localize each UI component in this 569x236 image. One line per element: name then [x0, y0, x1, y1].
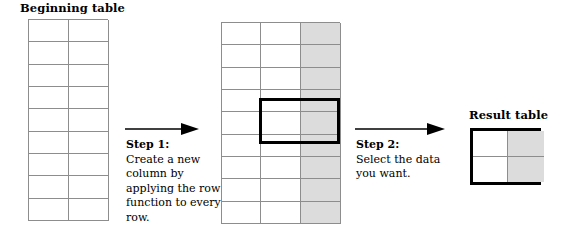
step1-caption: Step 1: Create a new column by applying … [126, 138, 222, 226]
table-cell [261, 68, 301, 90]
table-cell [301, 112, 341, 134]
table-cell [301, 179, 341, 201]
table-cell [222, 45, 261, 67]
table-cell [69, 154, 109, 176]
step1-title: Step 1: [126, 138, 222, 153]
table-cell [301, 135, 341, 157]
table-cell [261, 45, 301, 67]
table-cell [69, 109, 109, 131]
table-cell [222, 23, 261, 45]
table-cell [69, 132, 109, 154]
table-cell [301, 23, 341, 45]
table-cell [261, 157, 301, 179]
beginning-table-heading: Beginning table [20, 1, 125, 15]
table-cell [261, 202, 301, 224]
table-cell [222, 135, 261, 157]
step2-arrow-icon [355, 121, 445, 135]
table-cell [222, 112, 261, 134]
table-cell [261, 179, 301, 201]
diagram-canvas: Beginning table Step 1: Create a new col… [0, 0, 569, 236]
table-cell [508, 157, 544, 183]
table-cell [222, 157, 261, 179]
table-cell [301, 45, 341, 67]
table-cell [29, 109, 69, 131]
result-table [470, 128, 541, 185]
table-cell [301, 202, 341, 224]
table-cell [29, 199, 69, 221]
intermediate-table [221, 22, 340, 224]
table-cell [222, 90, 261, 112]
table-cell [222, 179, 261, 201]
table-cell [69, 87, 109, 109]
table-cell [222, 202, 261, 224]
table-cell [69, 42, 109, 64]
table-cell [261, 90, 301, 112]
table-cell [261, 23, 301, 45]
table-cell [473, 131, 508, 157]
table-cell [29, 132, 69, 154]
table-cell [301, 157, 341, 179]
table-cell [261, 135, 301, 157]
step1-arrow-icon [125, 121, 199, 135]
beginning-table [28, 19, 108, 221]
table-cell [301, 68, 341, 90]
table-cell [29, 176, 69, 198]
table-cell [222, 68, 261, 90]
table-cell [29, 42, 69, 64]
table-cell [69, 176, 109, 198]
step1-body: Create a new column by applying the row … [126, 153, 222, 226]
table-cell [29, 65, 69, 87]
table-cell [301, 90, 341, 112]
step2-body: Select the data you want. [356, 153, 460, 182]
table-cell [29, 154, 69, 176]
result-table-heading: Result table [469, 108, 548, 122]
table-cell [69, 65, 109, 87]
table-cell [29, 87, 69, 109]
step2-title: Step 2: [356, 138, 460, 153]
step2-caption: Step 2: Select the data you want. [356, 138, 460, 182]
table-cell [29, 20, 69, 42]
table-cell [508, 131, 544, 157]
table-cell [69, 199, 109, 221]
table-cell [473, 157, 508, 183]
table-cell [261, 112, 301, 134]
table-cell [69, 20, 109, 42]
